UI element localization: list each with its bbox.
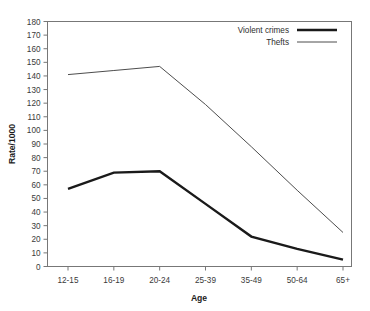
legend-label: Thefts — [266, 38, 289, 47]
x-tick-label: 35-49 — [241, 276, 262, 285]
y-tick-label: 160 — [27, 45, 41, 54]
y-tick-label: 20 — [31, 235, 41, 244]
x-tick-label: 16-19 — [103, 276, 124, 285]
y-tick-label: 170 — [27, 31, 41, 40]
x-tick-label: 12-15 — [58, 276, 79, 285]
y-tick-label: 70 — [31, 167, 41, 176]
x-axis-ticks — [68, 267, 343, 271]
y-tick-label: 90 — [31, 140, 41, 149]
y-tick-label: 140 — [27, 72, 41, 81]
plot-frame — [48, 22, 352, 267]
y-axis-title: Rate/1000 — [7, 124, 17, 164]
y-tick-label: 110 — [27, 113, 40, 122]
y-tick-label: 40 — [31, 208, 41, 217]
x-tick-label: 20-24 — [149, 276, 170, 285]
y-tick-label: 60 — [31, 181, 41, 190]
x-tick-label: 50-64 — [287, 276, 308, 285]
y-tick-label: 130 — [27, 86, 41, 95]
x-tick-label: 25-39 — [195, 276, 216, 285]
y-tick-label: 120 — [27, 99, 41, 108]
x-axis-tick-labels: 12-1516-1920-2425-3935-4950-6465+ — [58, 276, 351, 285]
legend-label: Violent crimes — [238, 26, 289, 35]
y-axis-ticks — [44, 22, 48, 267]
y-tick-label: 100 — [27, 126, 41, 135]
chart-container: 0102030405060708090100110120130140150160… — [0, 0, 370, 311]
y-tick-label: 0 — [36, 263, 41, 272]
y-tick-label: 80 — [31, 154, 41, 163]
y-tick-label: 50 — [31, 194, 41, 203]
y-tick-label: 180 — [27, 18, 41, 27]
x-tick-label: 65+ — [336, 276, 350, 285]
line-chart: 0102030405060708090100110120130140150160… — [0, 0, 370, 311]
y-tick-label: 10 — [31, 249, 41, 258]
y-axis-tick-labels: 0102030405060708090100110120130140150160… — [27, 18, 41, 272]
y-tick-label: 30 — [31, 222, 41, 231]
x-axis-title: Age — [191, 293, 207, 303]
y-tick-label: 150 — [27, 58, 41, 67]
